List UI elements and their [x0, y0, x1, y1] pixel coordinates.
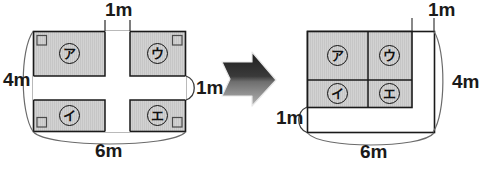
right-cell-label-a: ア — [327, 45, 348, 66]
right-diagram — [299, 18, 443, 145]
left-dim-label-width: 6m — [95, 141, 122, 160]
left-horizontal-path — [33, 76, 186, 100]
left-diagram — [23, 20, 194, 144]
left-cell-label-a: ア — [59, 43, 80, 64]
left-dim-label-height: 4m — [3, 70, 30, 89]
left-dim-brace-right-path — [186, 76, 194, 100]
left-cell-label-i: イ — [59, 105, 80, 126]
left-cell-label-u: ウ — [147, 43, 168, 64]
right-cell-label-i: イ — [327, 83, 348, 104]
transformation-arrow-graphic — [222, 52, 276, 106]
right-dim-label-left-gap: 1m — [276, 108, 303, 127]
left-dim-tick-top-path — [105, 20, 130, 31]
left-dim-label-path-right: 1m — [196, 78, 223, 97]
right-cell-label-u: ウ — [379, 45, 400, 66]
figure-graphics — [0, 0, 493, 170]
left-dim-label-path-top: 1m — [105, 0, 132, 19]
geometry-figure: 1m 4m 1m 6m ア ウ イ エ 1m 4m 1m 6m ア ウ イ エ — [0, 0, 493, 170]
right-dim-label-height: 4m — [452, 72, 479, 91]
left-cell-label-e: エ — [147, 105, 168, 126]
right-dim-label-width: 6m — [360, 142, 387, 161]
right-dim-label-top-gap: 1m — [428, 0, 455, 19]
right-cell-label-e: エ — [379, 83, 400, 104]
